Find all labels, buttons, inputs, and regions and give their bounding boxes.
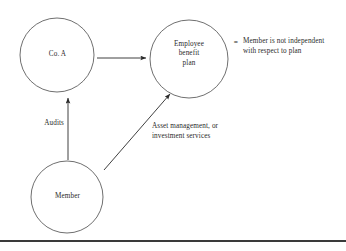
annotation-member-not-independent: Member is not independent with respect t… — [243, 37, 343, 56]
node-circle-co-a — [20, 18, 94, 92]
edge-label-asset-management-investment-services: Asset management, or investment services — [152, 122, 262, 141]
edge-label-audits: Audits — [32, 119, 64, 129]
footer-divider — [0, 240, 346, 242]
node-circle-employee-benefit-plan — [150, 20, 228, 98]
node-circle-member — [31, 161, 103, 233]
annotation-equals-icon: = — [232, 38, 240, 48]
